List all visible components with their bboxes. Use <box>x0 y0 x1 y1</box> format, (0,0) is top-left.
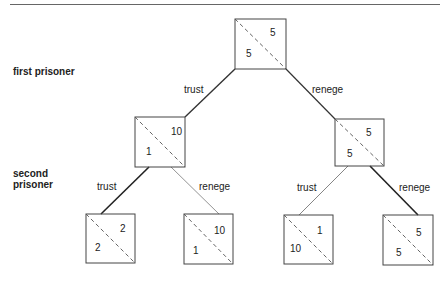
mid-right-payoff-first: 5 <box>347 148 353 159</box>
branch-right-renege: renege <box>399 182 430 193</box>
leaf-3-payoff-second: 1 <box>317 225 323 236</box>
leaf-4-payoff-first: 5 <box>396 247 402 258</box>
second-prisoner-label-line1: second <box>13 168 48 179</box>
first-prisoner-label: first prisoner <box>13 66 75 77</box>
tree-lines <box>0 0 448 281</box>
branch-root-trust: trust <box>184 84 203 95</box>
branch-right-trust: trust <box>297 182 316 193</box>
branch-left-trust: trust <box>97 181 116 192</box>
leaf-2-payoff-first: 1 <box>193 245 199 256</box>
root-payoff-second: 5 <box>270 27 276 38</box>
second-prisoner-label-line2: prisoner <box>13 179 53 190</box>
branch-root-renege: renege <box>312 84 343 95</box>
leaf-1-payoff-first: 2 <box>95 242 101 253</box>
mid-right-payoff-second: 5 <box>366 127 372 138</box>
leaf-2-payoff-second: 10 <box>214 225 225 236</box>
mid-left-payoff-first: 1 <box>146 146 152 157</box>
leaf-1-payoff-second: 2 <box>120 223 126 234</box>
leaf-3-payoff-first: 10 <box>290 243 301 254</box>
leaf-4-payoff-second: 5 <box>416 227 422 238</box>
mid-left-payoff-second: 10 <box>171 126 182 137</box>
branch-left-renege: renege <box>199 181 230 192</box>
root-payoff-first: 5 <box>246 48 252 59</box>
